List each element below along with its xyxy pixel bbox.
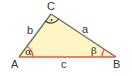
angle-label-alpha: α xyxy=(25,47,32,57)
side-label-c: c xyxy=(61,59,67,70)
triangle-fill xyxy=(19,14,116,57)
right-angle-dot xyxy=(51,19,53,21)
side-label-a: a xyxy=(82,24,88,35)
side-label-b: b xyxy=(27,25,33,36)
vertex-label-b: B xyxy=(113,59,120,70)
vertex-label-a: A xyxy=(11,59,18,70)
angle-label-beta: β xyxy=(91,46,97,56)
vertex-label-c: C xyxy=(47,1,55,12)
